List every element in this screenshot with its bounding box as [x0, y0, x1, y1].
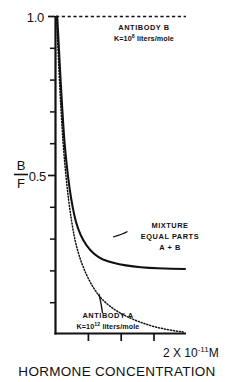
annotation-mixture-line-1: MIXTURE	[151, 221, 188, 230]
y-axis-title: B F	[14, 158, 28, 191]
antibody-a-k-prefix: K=10	[77, 322, 95, 331]
antibody-a-k-suffix: liters/mole	[100, 322, 139, 331]
x-axis-end-mantissa: 2 X 10	[163, 346, 198, 360]
axes-group	[54, 16, 186, 335]
x-axis-end-exponent: -11	[198, 345, 210, 354]
x-axis-title: HORMONE CONCENTRATION	[18, 364, 215, 379]
annotation-antibody-a: ANTIBODY A K=1012 liters/mole	[77, 311, 140, 331]
leader-line-mixture	[113, 232, 128, 238]
y-tick-label-1-0: 1.0	[27, 10, 44, 25]
annotation-antibody-a-title: ANTIBODY A	[82, 311, 133, 320]
curve-antibody-a	[57, 17, 185, 333]
y-axis-ticks	[48, 17, 55, 303]
annotation-antibody-b: ANTIBODY B K=108 liters/mole	[114, 23, 174, 43]
annotation-mixture: MIXTURE EQUAL PARTS A + B	[141, 221, 199, 252]
y-axis-title-numerator: B	[17, 158, 26, 173]
y-axis-title-denominator: F	[17, 176, 25, 191]
annotation-antibody-a-constant: K=1012 liters/mole	[77, 321, 140, 331]
antibody-b-k-prefix: K=10	[114, 34, 132, 43]
annotation-mixture-line-3: A + B	[159, 243, 181, 252]
x-axis-end-unit: M	[209, 346, 219, 360]
antibody-b-k-suffix: liters/mole	[135, 34, 174, 43]
chart-canvas: 1.0 0.5 B F ANTIBODY B K=108 liters/mole…	[0, 0, 240, 382]
annotation-antibody-b-title: ANTIBODY B	[118, 23, 169, 32]
x-axis-end-label: 2 X 10-11M	[163, 345, 219, 360]
annotation-antibody-b-constant: K=108 liters/mole	[114, 33, 174, 43]
chart-figure: 1.0 0.5 B F ANTIBODY B K=108 liters/mole…	[0, 0, 240, 382]
annotation-mixture-line-2: EQUAL PARTS	[141, 232, 199, 241]
y-tick-label-0-5: 0.5	[29, 169, 46, 184]
